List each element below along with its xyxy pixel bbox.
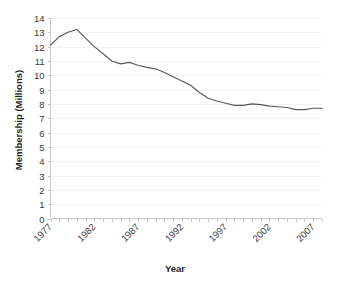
chart-canvas: 01234567891011121314 1977198219871992199… — [0, 0, 340, 286]
y-tick-label: 5 — [39, 142, 44, 153]
y-tick-label: 1 — [39, 199, 44, 210]
y-tick-label: 14 — [34, 13, 45, 24]
y-tick-label: 11 — [35, 56, 45, 67]
y-tick-label: 3 — [39, 171, 44, 182]
y-axis-title: Membership (Millions) — [13, 70, 24, 170]
y-tick-label: 13 — [34, 27, 45, 38]
y-tick-label: 8 — [39, 99, 44, 110]
y-tick-label: 7 — [39, 113, 44, 124]
x-axis-title: Year — [165, 263, 185, 274]
y-tick-label: 6 — [39, 128, 44, 139]
y-tick-label: 9 — [39, 85, 44, 96]
y-tick-label: 10 — [34, 70, 45, 81]
y-tick-label: 4 — [39, 156, 44, 167]
y-tick-label: 12 — [34, 42, 45, 53]
y-tick-label: 2 — [39, 185, 44, 196]
line-chart: 01234567891011121314 1977198219871992199… — [0, 0, 340, 286]
